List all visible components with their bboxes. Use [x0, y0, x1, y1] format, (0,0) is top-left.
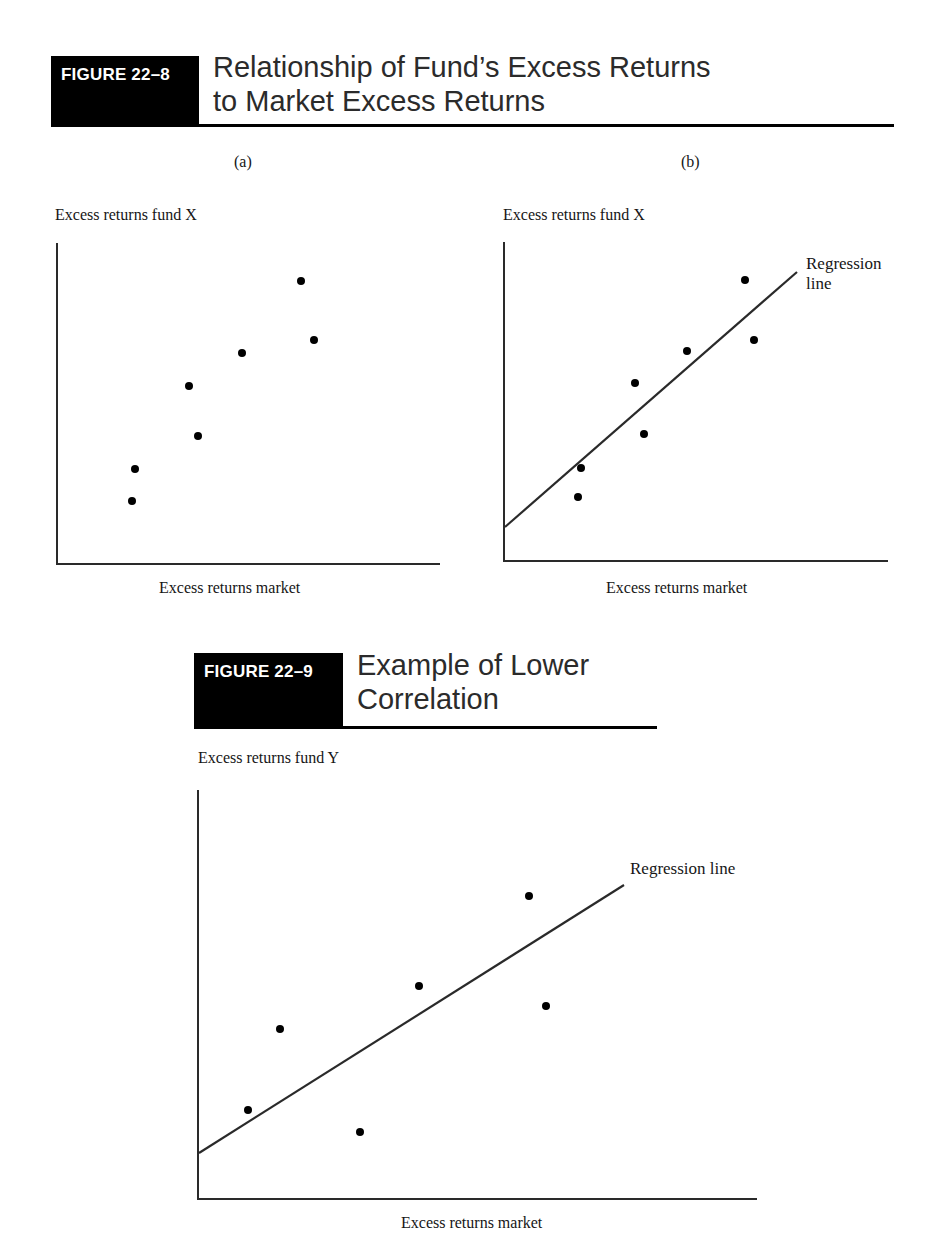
data-point	[542, 1002, 550, 1010]
data-point	[276, 1025, 284, 1033]
data-point	[525, 892, 533, 900]
chart-figure-22-9: Excess returns fund Y Regression line Ex…	[0, 0, 950, 1249]
data-point	[415, 982, 423, 990]
data-point	[244, 1106, 252, 1114]
figure-22-9-regression-label: Regression line	[630, 859, 735, 879]
figure-22-9-regression-line	[0, 0, 950, 1249]
figure-22-9-x-axis-label: Excess returns market	[401, 1213, 542, 1232]
figure-page: FIGURE 22–8 Relationship of Fund’s Exces…	[0, 0, 950, 1249]
data-point	[356, 1128, 364, 1136]
